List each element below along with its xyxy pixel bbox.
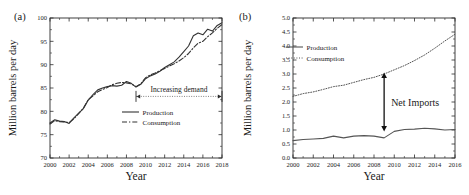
x-tick-label: 2002 (63, 161, 76, 168)
legend-label-production: Production (307, 44, 338, 52)
x-tick-label: 2006 (347, 161, 361, 168)
figure-container: 2000200220042006200820102012201420162018… (0, 0, 469, 195)
x-tick-label: 2014 (177, 161, 191, 168)
y-axis-title: Million barrels per day (242, 39, 253, 136)
x-tick-label: 2004 (327, 161, 341, 168)
x-tick-label: 2016 (449, 161, 463, 168)
x-axis-title: Year (363, 170, 384, 182)
panel-a-plot: 2000200220042006200820102012201420162018… (0, 0, 234, 195)
series-line-production (293, 128, 455, 140)
x-tick-label: 2004 (82, 161, 96, 168)
x-tick-label: 2008 (120, 161, 133, 168)
y-tick-label: 2.0 (282, 98, 290, 105)
series-line-production (50, 23, 222, 124)
panel-a: 2000200220042006200820102012201420162018… (0, 0, 234, 195)
x-tick-label: 2010 (388, 161, 401, 168)
x-tick-label: 2006 (101, 161, 115, 168)
x-tick-label: 2010 (139, 161, 152, 168)
x-tick-label: 2012 (408, 161, 421, 168)
y-tick-label: 3.0 (282, 70, 290, 77)
x-tick-label: 2000 (44, 161, 57, 168)
x-tick-label: 2002 (307, 161, 320, 168)
x-tick-label: 2000 (287, 161, 300, 168)
legend-label-consumption: Consumption (307, 55, 345, 63)
y-tick-label: 70 (41, 154, 48, 161)
y-tick-label: 75 (41, 131, 48, 138)
y-tick-label: 0.0 (282, 154, 290, 161)
y-tick-label: 2.5 (282, 84, 290, 91)
y-axis-title: Million barrels per day (7, 39, 18, 136)
y-tick-label: 3.5 (282, 56, 290, 63)
panel-tag: (b) (239, 11, 252, 23)
y-tick-label: 5.0 (282, 14, 290, 21)
plot-frame (293, 18, 455, 158)
annot-arrowhead-right (218, 94, 222, 98)
y-tick-label: 85 (41, 84, 48, 91)
y-tick-label: 1.0 (282, 126, 290, 133)
x-tick-label: 2016 (196, 161, 210, 168)
legend-label-consumption: Consumption (143, 119, 181, 127)
x-tick-label: 2012 (158, 161, 171, 168)
annot-label: Increasing demand (151, 85, 208, 94)
x-axis-title: Year (125, 170, 146, 182)
y-tick-label: 95 (41, 38, 48, 45)
panel-tag: (a) (14, 11, 26, 23)
annot-label: Net Imports (391, 97, 439, 108)
legend-label-production: Production (143, 109, 174, 117)
panel-b-plot: 2000200220042006200820102012201420160.00… (234, 0, 469, 195)
panel-b: 2000200220042006200820102012201420160.00… (234, 0, 469, 195)
y-tick-label: 0.5 (282, 140, 290, 147)
annot-arrowhead-down (381, 126, 387, 131)
x-tick-label: 2008 (368, 161, 381, 168)
y-tick-label: 1.5 (282, 112, 290, 119)
x-tick-label: 2018 (216, 161, 229, 168)
y-tick-label: 100 (37, 14, 47, 21)
series-line-consumption (50, 25, 222, 124)
y-tick-label: 4.5 (282, 28, 290, 35)
annot-arrowhead-left (137, 94, 141, 98)
x-tick-label: 2014 (428, 161, 442, 168)
y-tick-label: 4.0 (282, 42, 290, 49)
y-tick-label: 90 (41, 61, 48, 68)
y-tick-label: 80 (41, 108, 48, 115)
